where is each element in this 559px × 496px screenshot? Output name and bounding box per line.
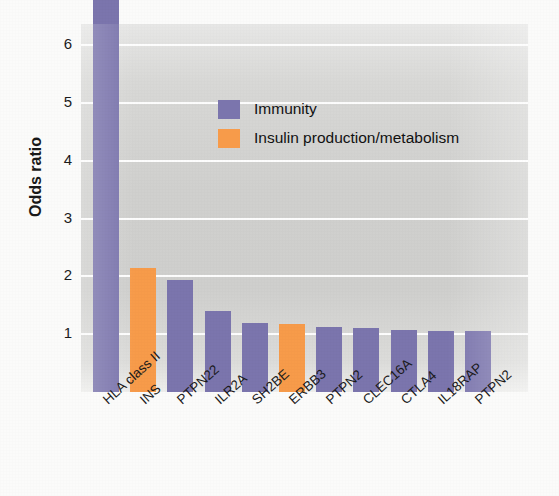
plot-area: ImmunityInsulin production/metabolism <box>81 24 528 392</box>
legend-item-insulin-production-metabolism: Insulin production/metabolism <box>218 125 459 151</box>
bar-ptpn22-2 <box>167 280 193 392</box>
legend-swatch-immunity <box>218 100 240 119</box>
legend-label: Immunity <box>254 100 317 118</box>
legend-label: Insulin production/metabolism <box>254 129 459 147</box>
gridline <box>81 160 528 162</box>
y-axis-tick-5: 5 <box>46 93 72 110</box>
y-axis-tick-6: 6 <box>46 35 72 52</box>
legend-item-immunity: Immunity <box>218 96 459 122</box>
y-axis-tick-4: 4 <box>46 151 72 168</box>
legend: ImmunityInsulin production/metabolism <box>218 96 459 154</box>
y-axis-tick-2: 2 <box>46 266 72 283</box>
legend-swatch-insulin <box>218 129 240 148</box>
gridline <box>81 218 528 220</box>
y-axis-tick-3: 3 <box>46 209 72 226</box>
bar-hla-class-ii-0 <box>93 0 119 392</box>
y-axis-tick-1: 1 <box>46 324 72 341</box>
odds-ratio-bar-chart: Odds ratio 123456 ImmunityInsulin produc… <box>0 0 559 496</box>
y-axis-title: Odds ratio <box>27 97 45 257</box>
gridline <box>81 44 528 46</box>
